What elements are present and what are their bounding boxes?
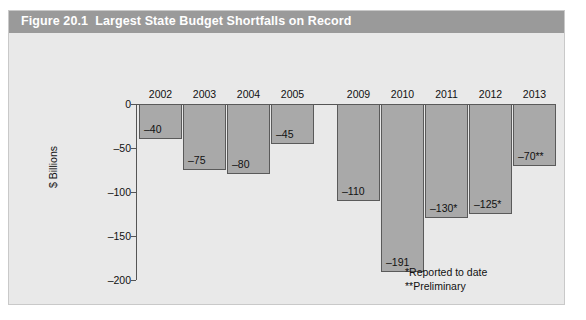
- bar-value-label: –70**: [518, 150, 544, 162]
- bar-value-label: –75: [188, 154, 206, 166]
- y-tick-label: –50: [85, 142, 131, 154]
- y-tick-mark: [131, 104, 136, 105]
- bar-value-label: –125*: [474, 198, 501, 210]
- y-tick-label: 0: [85, 98, 131, 110]
- y-tick-label-wrap: 0: [79, 104, 131, 105]
- figure-title-bar: Figure 20.1 Largest State Budget Shortfa…: [9, 11, 564, 33]
- y-tick-mark: [131, 192, 136, 193]
- bar-2002: –40: [139, 104, 182, 139]
- y-tick-label: –150: [85, 230, 131, 242]
- bar-value-label: –110: [342, 185, 365, 197]
- bar-2012: –125*: [469, 104, 512, 214]
- bar-value-label: –80: [232, 158, 250, 170]
- bar-2005: –45: [271, 104, 314, 144]
- x-tick-label-2009: 2009: [337, 88, 380, 100]
- footnote-2: **Preliminary: [405, 279, 487, 293]
- bar-value-label: –130*: [430, 202, 457, 214]
- y-tick-mark: [131, 236, 136, 237]
- figure-title: Figure 20.1 Largest State Budget Shortfa…: [21, 14, 351, 28]
- bar-value-label: –40: [144, 123, 162, 135]
- bar-2003: –75: [183, 104, 226, 170]
- bar-2009: –110: [337, 104, 380, 201]
- x-tick-label-2003: 2003: [183, 88, 226, 100]
- x-tick-label-2011: 2011: [425, 88, 468, 100]
- y-tick-label-wrap: –100: [79, 192, 131, 193]
- y-tick-label: –100: [85, 186, 131, 198]
- bar-2011: –130*: [425, 104, 468, 218]
- footnote-1: *Reported to date: [405, 265, 487, 279]
- figure-panel: Figure 20.1 Largest State Budget Shortfa…: [8, 10, 565, 305]
- chart-plot-area: $ Billions 0–50–100–150–200 –402002–7520…: [9, 33, 564, 306]
- y-tick-mark: [131, 148, 136, 149]
- y-tick-label-wrap: –200: [79, 280, 131, 281]
- x-tick-label-2002: 2002: [139, 88, 182, 100]
- y-tick-label-wrap: –150: [79, 236, 131, 237]
- y-tick-label: –200: [85, 274, 131, 286]
- y-tick-label-wrap: –50: [79, 148, 131, 149]
- bar-2004: –80: [227, 104, 270, 174]
- bar-2010: –191: [381, 104, 424, 272]
- y-axis-line: [136, 104, 137, 280]
- bar-value-label: –45: [276, 128, 294, 140]
- y-tick-mark: [131, 280, 136, 281]
- y-axis-title: $ Billions: [47, 117, 59, 217]
- x-tick-label-2004: 2004: [227, 88, 270, 100]
- chart-footnotes: *Reported to date**Preliminary: [405, 265, 487, 293]
- x-tick-label-2005: 2005: [271, 88, 314, 100]
- x-tick-label-2010: 2010: [381, 88, 424, 100]
- x-tick-label-2012: 2012: [469, 88, 512, 100]
- x-tick-label-2013: 2013: [513, 88, 556, 100]
- bar-2013: –70**: [513, 104, 556, 166]
